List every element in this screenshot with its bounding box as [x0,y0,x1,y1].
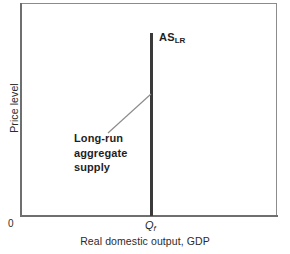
qf-label-subscript: f [154,224,156,233]
as-lr-label-base: AS [159,31,175,43]
long-run-aggregate-supply-chart: ASLR Long-run aggregate supply 0 Qf Real… [0,0,290,254]
x-axis-title: Real domestic output, GDP [0,235,290,247]
x-axis-line [20,215,278,217]
qf-label-base: Q [145,219,154,231]
x-tick-label-qf: Qf [145,219,156,231]
origin-label: 0 [8,218,14,229]
as-lr-curve-label: ASLR [159,31,185,43]
annotation-text-block: Long-run aggregate supply [74,131,127,175]
annotation-line-2: aggregate [74,146,127,161]
as-lr-curve [150,33,153,216]
as-lr-label-subscript: LR [175,36,186,45]
annotation-line-3: supply [74,160,127,175]
annotation-line-1: Long-run [74,131,127,146]
y-axis-title: Price level [8,58,20,158]
y-axis-line [20,3,22,217]
plot-frame [20,3,277,216]
